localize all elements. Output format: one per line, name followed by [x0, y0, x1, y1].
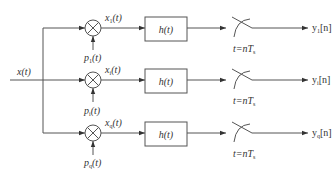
output-label-i: yi[n] — [312, 75, 330, 85]
filter-label-q: h(t) — [145, 122, 187, 146]
intermediate-signal-label-i: xi(t) — [105, 65, 121, 75]
intermediate-signal-label-q: xq(t) — [105, 118, 122, 128]
sampler-label-q: t=nTs — [233, 149, 255, 159]
filter-label-1: h(t) — [145, 17, 187, 41]
output-label-1: y1[n] — [312, 23, 332, 33]
output-label-q: yq[n] — [312, 128, 332, 138]
intermediate-signal-label-1: x1(t) — [105, 13, 122, 23]
multiplier-signal-label-q: pq(t) — [84, 158, 101, 168]
sampler-label-i: t=nTs — [233, 96, 255, 106]
multiplier-signal-label-1: p1(t) — [84, 53, 101, 63]
sampler-label-1: t=nTs — [233, 44, 255, 54]
multiplier-signal-label-i: pi(t) — [84, 106, 100, 116]
input-signal-label: x(t) — [17, 67, 31, 77]
filter-label-i: h(t) — [145, 69, 187, 93]
